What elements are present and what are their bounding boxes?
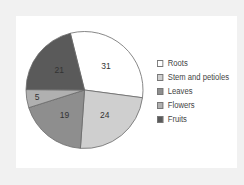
legend-item-leaves: Leaves	[157, 84, 229, 98]
legend-item-fruits: Fruits	[157, 112, 229, 126]
legend-swatch-stem	[157, 74, 163, 81]
legend-label: Fruits	[168, 114, 187, 124]
legend-label: Roots	[168, 58, 188, 68]
data-label-stem-and-petioles: 24	[100, 110, 110, 120]
legend-item-flowers: Flowers	[157, 98, 229, 112]
legend-swatch-roots	[157, 60, 163, 67]
legend-item-stem-and-petioles: Stem and petioles	[157, 70, 229, 84]
legend-item-roots: Roots	[157, 56, 229, 70]
data-label-fruits: 21	[54, 65, 64, 75]
pie-slices	[26, 32, 143, 149]
data-label-flowers: 5	[35, 92, 40, 102]
legend-swatch-flowers	[157, 102, 163, 109]
data-label-leaves: 19	[60, 110, 70, 120]
legend-label: Stem and petioles	[168, 72, 229, 82]
data-label-roots: 31	[101, 61, 111, 71]
pie-slice-stem-and-petioles	[80, 90, 142, 149]
legend-swatch-fruits	[157, 116, 163, 123]
legend-label: Leaves	[168, 86, 193, 96]
legend-swatch-leaves	[157, 88, 163, 95]
legend-label: Flowers	[168, 100, 195, 110]
legend: Roots Stem and petioles Leaves Flowers F…	[157, 56, 237, 126]
